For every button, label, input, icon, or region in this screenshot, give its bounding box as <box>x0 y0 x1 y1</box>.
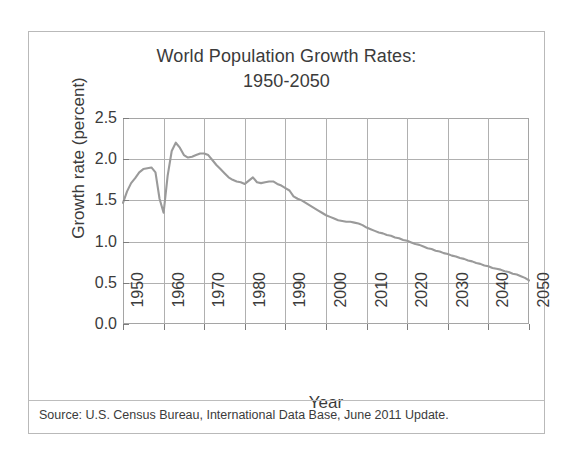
x-axis-tick-mark <box>367 324 368 330</box>
x-axis-tick-mark <box>326 324 327 330</box>
y-axis-tick-mark <box>123 242 129 243</box>
x-axis-tick-label: 1970 <box>210 272 228 332</box>
source-note: Source: U.S. Census Bureau, Internationa… <box>39 407 449 423</box>
x-axis-tick-label: 2020 <box>413 272 431 332</box>
x-axis-tick-label: 2000 <box>332 272 350 332</box>
x-axis-tick-label: 2010 <box>373 272 391 332</box>
x-axis-tick-label: 1960 <box>170 272 188 332</box>
source-divider <box>29 400 544 401</box>
x-axis-tick-mark <box>245 324 246 330</box>
y-axis-tick-label: 0.0 <box>95 316 117 332</box>
growth-rate-line <box>123 143 529 281</box>
x-axis-tick-mark <box>164 324 165 330</box>
x-axis-tick-label: 2030 <box>454 272 472 332</box>
x-axis-tick-mark <box>285 324 286 330</box>
x-axis-tick-label: 1980 <box>251 272 269 332</box>
y-axis-tick-mark <box>123 118 129 119</box>
chart-title: World Population Growth Rates: 1950-2050 <box>29 44 544 94</box>
x-axis-tick-mark <box>407 324 408 330</box>
x-axis-tick-label: 1950 <box>129 272 147 332</box>
x-axis-tick-mark <box>529 324 530 330</box>
y-axis-tick-labels: 0.00.51.01.52.02.5 <box>69 118 117 324</box>
chart-title-line-2: 1950-2050 <box>29 69 544 94</box>
x-axis-tick-label: 2050 <box>535 272 553 332</box>
x-axis-tick-label: 2040 <box>494 272 512 332</box>
y-axis-tick-label: 1.0 <box>95 234 117 250</box>
x-axis-tick-mark <box>123 324 124 330</box>
x-axis-tick-mark <box>488 324 489 330</box>
y-axis-tick-label: 0.5 <box>95 275 117 291</box>
chart-title-line-1: World Population Growth Rates: <box>29 44 544 69</box>
x-axis-tick-mark <box>448 324 449 330</box>
y-axis-tick-mark <box>123 159 129 160</box>
y-axis-tick-label: 2.0 <box>95 151 117 167</box>
y-axis-tick-label: 2.5 <box>95 110 117 126</box>
chart-figure: World Population Growth Rates: 1950-2050… <box>28 31 545 434</box>
y-axis-tick-mark <box>123 200 129 201</box>
x-axis-tick-label: 1990 <box>291 272 309 332</box>
y-axis-tick-label: 1.5 <box>95 192 117 208</box>
x-axis-tick-mark <box>204 324 205 330</box>
